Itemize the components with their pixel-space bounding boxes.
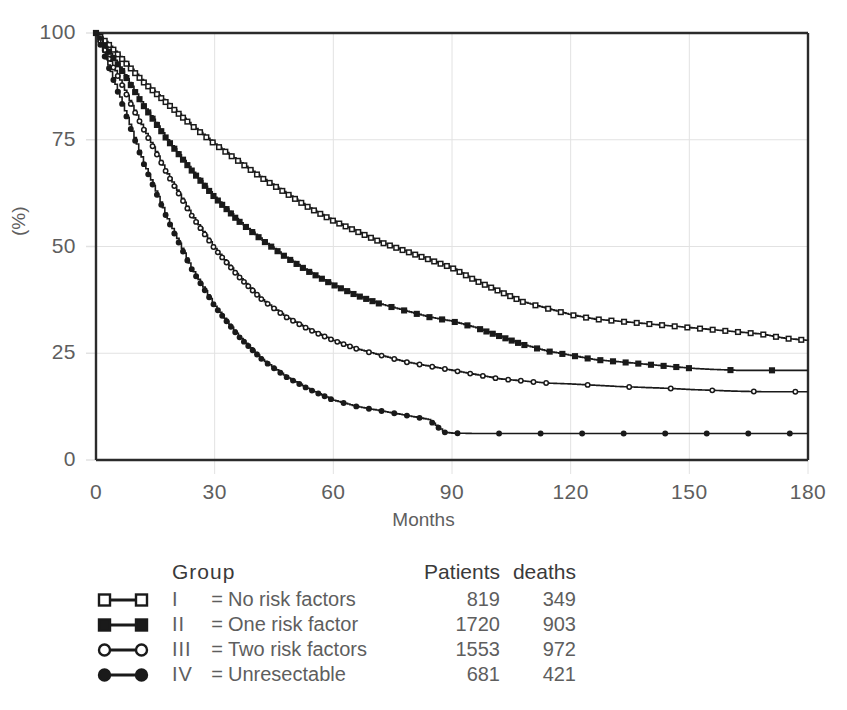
- marker-filled-circle: [211, 302, 215, 306]
- marker-filled-square: [351, 292, 356, 297]
- marker-filled-square: [307, 270, 312, 275]
- marker-filled-circle: [255, 352, 259, 356]
- marker-filled-square: [770, 368, 775, 373]
- marker-filled-circle: [316, 391, 320, 395]
- marker-open-square: [337, 221, 342, 226]
- marker-filled-circle: [379, 409, 383, 413]
- legend-patients-value: 819: [414, 587, 500, 612]
- marker-filled-square: [509, 338, 514, 343]
- legend-group-roman: IV: [172, 662, 206, 687]
- marker-filled-square: [326, 280, 331, 285]
- marker-open-square: [350, 227, 355, 232]
- marker-open-circle: [405, 360, 409, 364]
- y-tick-label: 25: [14, 340, 76, 364]
- marker-filled-square: [661, 364, 666, 369]
- legend-header-deaths: deaths: [500, 556, 576, 587]
- marker-filled-square: [585, 356, 590, 361]
- marker-filled-square: [185, 163, 190, 168]
- marker-filled-square: [370, 299, 375, 304]
- marker-filled-square: [313, 273, 318, 278]
- marker-filled-circle: [322, 394, 326, 398]
- marker-filled-circle: [198, 281, 202, 285]
- marker-open-circle: [392, 357, 396, 361]
- marker-filled-circle: [216, 308, 220, 312]
- marker-filled-circle: [242, 339, 246, 343]
- marker-open-square: [710, 327, 715, 332]
- marker-open-square: [546, 306, 551, 311]
- legend: GroupPatientsdeathsI=No risk factors8193…: [96, 556, 796, 687]
- marker-open-circle: [367, 350, 371, 354]
- marker-filled-circle: [103, 54, 107, 58]
- marker-filled-circle: [176, 240, 180, 244]
- marker-open-circle: [220, 255, 224, 259]
- marker-filled-square: [269, 244, 274, 249]
- marker-filled-square: [142, 104, 147, 109]
- marker-open-circle: [354, 346, 358, 350]
- marker-open-circle: [316, 331, 320, 335]
- marker-filled-circle: [181, 249, 185, 253]
- marker-open-circle: [348, 344, 352, 348]
- legend-header-row: GroupPatientsdeaths: [96, 556, 576, 587]
- marker-open-square: [198, 130, 203, 135]
- marker-filled-circle: [172, 231, 176, 235]
- marker-open-square: [748, 331, 753, 336]
- marker-filled-square: [649, 362, 654, 367]
- marker-filled-circle: [329, 397, 333, 401]
- x-tick-label: 90: [412, 480, 492, 504]
- marker-filled-circle: [284, 375, 288, 379]
- marker-filled-circle: [116, 90, 120, 94]
- marker-open-square: [217, 145, 222, 150]
- marker-open-square: [331, 218, 336, 223]
- marker-open-square: [451, 266, 456, 271]
- marker-filled-circle: [303, 385, 307, 389]
- marker-filled-circle: [168, 222, 172, 226]
- marker-open-circle: [297, 322, 301, 326]
- y-axis-title: (%): [8, 206, 30, 236]
- marker-open-square: [261, 177, 266, 182]
- marker-open-circle: [120, 83, 124, 87]
- marker-filled-circle: [133, 139, 137, 143]
- marker-open-circle: [172, 184, 176, 188]
- marker-filled-square: [124, 76, 129, 81]
- marker-open-circle: [443, 367, 447, 371]
- marker-open-circle: [455, 369, 459, 373]
- marker-open-square: [375, 238, 380, 243]
- marker-open-circle: [150, 144, 154, 148]
- marker-filled-square: [497, 334, 502, 339]
- marker-open-square: [120, 57, 125, 62]
- marker-filled-circle: [150, 182, 154, 186]
- series-filled-circle: [94, 31, 808, 436]
- marker-filled-circle: [129, 127, 133, 131]
- legend-marker-filled-square-icon: [96, 612, 172, 637]
- marker-open-square: [369, 235, 374, 240]
- marker-filled-circle: [111, 78, 115, 82]
- x-tick-label: 60: [293, 480, 373, 504]
- marker-filled-circle: [224, 319, 228, 323]
- marker-filled-circle: [663, 431, 667, 435]
- marker-open-square: [558, 310, 563, 315]
- survival-chart-figure: (%) Months 10075502500306090120150180 Gr…: [0, 0, 847, 710]
- marker-filled-circle: [250, 348, 254, 352]
- marker-filled-circle: [291, 378, 295, 382]
- marker-open-circle: [168, 176, 172, 180]
- marker-open-circle: [116, 74, 120, 78]
- x-tick-label: 180: [768, 480, 847, 504]
- marker-open-circle: [493, 376, 497, 380]
- marker-filled-circle: [443, 430, 447, 434]
- y-tick-label: 50: [14, 234, 76, 258]
- marker-filled-square: [611, 359, 616, 364]
- marker-open-square: [672, 324, 677, 329]
- x-tick-label: 120: [531, 480, 611, 504]
- marker-open-square: [293, 197, 298, 202]
- x-tick-label: 150: [649, 480, 729, 504]
- marker-open-square: [362, 233, 367, 238]
- marker-filled-square: [535, 346, 540, 351]
- marker-filled-square: [332, 283, 337, 288]
- legend-equals-sign: =: [206, 662, 228, 687]
- marker-open-circle: [242, 280, 246, 284]
- marker-filled-square: [301, 266, 306, 271]
- marker-open-circle: [379, 353, 383, 357]
- marker-filled-circle: [155, 192, 159, 196]
- marker-filled-circle: [746, 431, 750, 435]
- marker-open-circle: [185, 206, 189, 210]
